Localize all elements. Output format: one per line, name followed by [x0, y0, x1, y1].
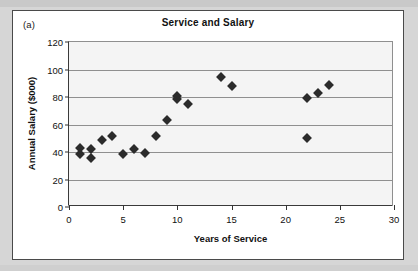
y-tick-label-0: 0	[58, 202, 63, 213]
gridline-y-20	[69, 180, 392, 181]
data-point	[107, 131, 117, 141]
data-point	[162, 115, 172, 125]
y-axis-title-text: Annual Salary ($000)	[27, 77, 38, 170]
gridline-y-60	[69, 125, 392, 126]
x-tick-mark-10	[177, 205, 178, 210]
data-point	[97, 135, 107, 145]
data-point	[302, 133, 312, 143]
plot-area: 020406080100120 051015202530	[68, 41, 393, 206]
x-axis-title: Years of Service	[68, 233, 393, 244]
data-point	[118, 149, 128, 159]
data-point	[302, 93, 312, 103]
x-tick-mark-30	[394, 205, 395, 210]
data-point	[216, 72, 226, 82]
y-tick-label-20: 20	[52, 174, 63, 185]
gridline-y-80	[69, 97, 392, 98]
x-tick-mark-5	[123, 205, 124, 210]
gridline-y-100	[69, 70, 392, 71]
y-tick-mark-120	[65, 42, 69, 43]
data-point	[227, 81, 237, 91]
data-point	[151, 131, 161, 141]
y-tick-label-40: 40	[52, 147, 63, 158]
x-tick-mark-20	[286, 205, 287, 210]
y-tick-label-100: 100	[47, 64, 63, 75]
x-tick-mark-0	[69, 205, 70, 210]
chart-title: Service and Salary	[13, 17, 403, 28]
x-tick-label-15: 15	[226, 214, 237, 225]
data-point	[75, 149, 85, 159]
y-tick-mark-80	[65, 97, 69, 98]
data-point	[183, 99, 193, 109]
y-tick-mark-20	[65, 179, 69, 180]
x-tick-label-30: 30	[389, 214, 400, 225]
y-tick-label-120: 120	[47, 37, 63, 48]
data-point	[324, 80, 334, 90]
y-tick-mark-40	[65, 152, 69, 153]
x-tick-label-5: 5	[121, 214, 126, 225]
x-tick-label-0: 0	[66, 214, 71, 225]
data-point	[140, 148, 150, 158]
y-tick-mark-100	[65, 69, 69, 70]
data-point	[86, 153, 96, 163]
x-axis-line	[69, 205, 392, 206]
y-tick-mark-60	[65, 124, 69, 125]
x-tick-label-25: 25	[335, 214, 346, 225]
figure-panel: (a) Service and Salary Annual Salary ($0…	[12, 10, 404, 260]
y-tick-label-60: 60	[52, 119, 63, 130]
x-tick-label-10: 10	[172, 214, 183, 225]
y-axis-title: Annual Salary ($000)	[25, 41, 39, 206]
x-tick-mark-15	[232, 205, 233, 210]
x-tick-label-20: 20	[280, 214, 291, 225]
x-tick-mark-25	[340, 205, 341, 210]
y-tick-label-80: 80	[52, 92, 63, 103]
